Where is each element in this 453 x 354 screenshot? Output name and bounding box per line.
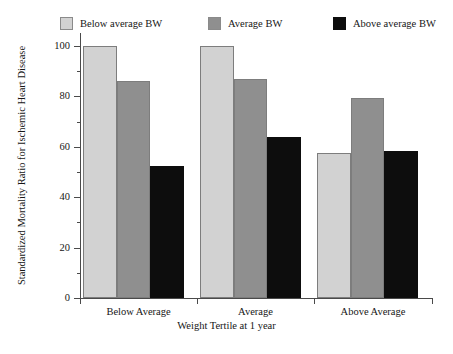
- plot-area: 100 80 60 40 20 0 Below Average Average …: [0, 0, 453, 354]
- bar-average-above-average-bw: [267, 137, 301, 298]
- x-axis-tick-1: [197, 298, 198, 304]
- y-axis-major-tick-80: [74, 96, 80, 97]
- y-tick-label-0: 0: [10, 293, 70, 303]
- y-axis-minor-tick-90: [77, 71, 80, 72]
- y-axis-minor-tick-50: [77, 172, 80, 173]
- bar-above-average-below-average-bw: [317, 153, 351, 298]
- bar-below-average-average-bw: [117, 81, 151, 298]
- y-axis-minor-tick-10: [77, 273, 80, 274]
- x-axis-tick-2: [314, 298, 315, 304]
- y-axis-minor-tick-30: [77, 222, 80, 223]
- x-axis-tick-3: [432, 298, 433, 304]
- y-axis-line: [80, 33, 81, 298]
- x-axis-line: [80, 298, 433, 299]
- bar-above-average-above-average-bw: [384, 151, 418, 298]
- y-axis-title: Standardized Mortality Ratio for Ischemi…: [16, 41, 27, 291]
- bar-average-below-average-bw: [200, 46, 234, 298]
- y-axis-major-tick-20: [74, 248, 80, 249]
- y-axis-major-tick-100: [74, 46, 80, 47]
- bar-average-average-bw: [234, 79, 268, 298]
- bar-above-average-average-bw: [351, 98, 385, 298]
- x-category-label-above-average: Above Average: [314, 306, 432, 318]
- bar-chart-figure: Below average BW Average BW Above averag…: [0, 0, 453, 354]
- bar-below-average-below-average-bw: [83, 46, 117, 298]
- x-category-label-below-average: Below Average: [80, 306, 197, 318]
- x-category-label-average: Average: [197, 306, 314, 318]
- y-axis-minor-tick-70: [77, 122, 80, 123]
- x-axis-title: Weight Tertile at 1 year: [0, 320, 453, 331]
- bar-below-average-above-average-bw: [150, 166, 184, 298]
- x-axis-tick-0: [80, 298, 81, 304]
- y-axis-major-tick-60: [74, 147, 80, 148]
- y-axis-major-tick-40: [74, 197, 80, 198]
